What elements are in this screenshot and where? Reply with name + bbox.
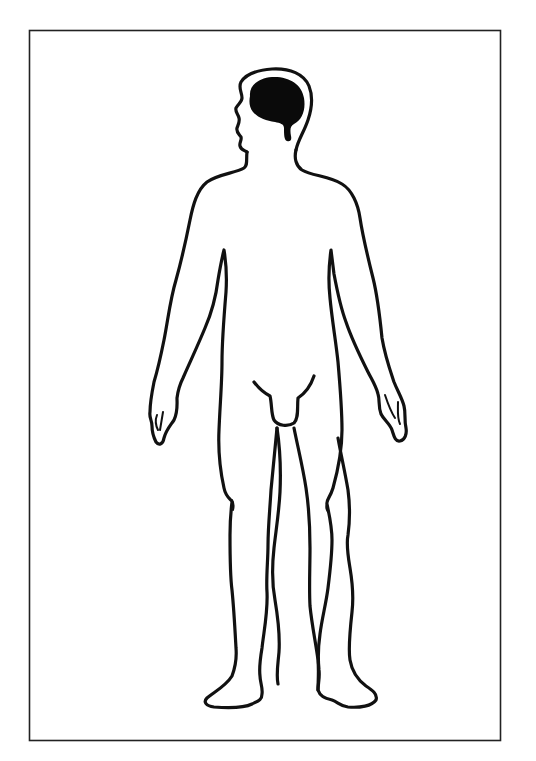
body-diagram: [0, 0, 536, 761]
